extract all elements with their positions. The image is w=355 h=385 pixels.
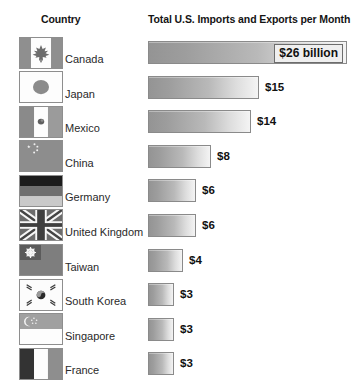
chart-rows: Canada$26 billion Japan$15 Mexico$14 Chi… (0, 36, 355, 382)
chart-row: Germany$6 (0, 174, 355, 209)
country-label: France (65, 365, 99, 376)
country-label: Japan (65, 89, 95, 100)
value-bar: $3 (148, 352, 174, 375)
value-bar: $4 (148, 249, 183, 272)
bar-container: $6 (148, 179, 196, 202)
value-bar: $8 (148, 145, 211, 168)
germany-flag (19, 175, 63, 207)
bar-container: $3 (148, 318, 174, 341)
chart-row: Mexico$14 (0, 105, 355, 140)
chart-row: China$8 (0, 140, 355, 175)
bar-container: $15 (148, 76, 259, 99)
country-label: Mexico (65, 123, 100, 134)
bar-value-label: $3 (180, 357, 193, 369)
value-bar: $3 (148, 283, 174, 306)
value-bar: $26 billion (148, 41, 347, 64)
japan-flag (19, 71, 63, 103)
canada-flag (19, 37, 63, 69)
chart-row: South Korea$3 (0, 278, 355, 313)
china-flag (19, 140, 63, 172)
value-bar: $14 (148, 110, 251, 133)
country-label: Singapore (65, 331, 115, 342)
bar-container: $26 billion (148, 41, 347, 64)
singapore-flag (19, 313, 63, 345)
country-label: Germany (65, 192, 110, 203)
chart-row: Taiwan$4 (0, 244, 355, 279)
country-label: Canada (65, 54, 104, 65)
bar-value-label: $14 (257, 115, 276, 127)
bar-container: $14 (148, 110, 251, 133)
country-label: China (65, 158, 94, 169)
bar-value-label: $6 (202, 219, 215, 231)
bar-container: $4 (148, 249, 183, 272)
south-korea-flag (19, 279, 63, 311)
france-flag (19, 348, 63, 380)
column-header-imports-exports: Total U.S. Imports and Exports per Month (148, 13, 350, 25)
value-bar: $6 (148, 179, 196, 202)
bar-container: $6 (148, 214, 196, 237)
country-label: South Korea (65, 296, 126, 307)
chart-row: France$3 (0, 347, 355, 382)
chart-row: Japan$15 (0, 71, 355, 106)
bar-value-label: $8 (217, 150, 230, 162)
bar-value-label: $3 (180, 288, 193, 300)
column-header-country: Country (41, 13, 81, 25)
country-label: Taiwan (65, 262, 99, 273)
bar-container: $8 (148, 145, 211, 168)
taiwan-flag (19, 244, 63, 276)
value-bar: $6 (148, 214, 196, 237)
bar-value-label: $6 (202, 184, 215, 196)
bar-value-label: $26 billion (274, 44, 343, 63)
mexico-flag (19, 106, 63, 138)
bar-container: $3 (148, 352, 174, 375)
bar-value-label: $15 (265, 81, 284, 93)
chart-row: Canada$26 billion (0, 36, 355, 71)
bar-container: $3 (148, 283, 174, 306)
value-bar: $15 (148, 76, 259, 99)
chart-row: Singapore$3 (0, 313, 355, 348)
value-bar: $3 (148, 318, 174, 341)
united-kingdom-flag (19, 209, 63, 241)
chart-row: United Kingdom$6 (0, 209, 355, 244)
country-label: United Kingdom (65, 227, 143, 238)
bar-value-label: $4 (189, 254, 202, 266)
bar-value-label: $3 (180, 323, 193, 335)
